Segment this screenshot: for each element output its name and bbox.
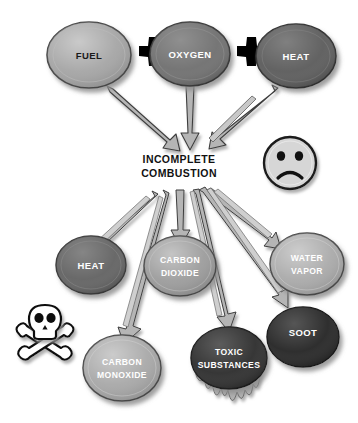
product-carbon-monoxide-label-line2: MONOXIDE <box>97 370 147 380</box>
skull-crossbones-icon <box>17 305 74 360</box>
product-soot-label: SOOT <box>289 327 318 338</box>
arrow-fuel-to-center <box>107 86 180 151</box>
reactant-fuel[interactable]: FUEL <box>47 22 131 88</box>
product-water-vapor[interactable]: WATER VAPOR <box>270 233 344 295</box>
product-water-vapor-label-line2: VAPOR <box>291 266 323 276</box>
diagram-canvas: FUEL OXYGEN HEAT INCOMPLETE COMBUSTION <box>0 0 358 423</box>
product-carbon-dioxide[interactable]: CARBON DIOXIDE <box>144 236 216 296</box>
product-carbon-monoxide[interactable]: CARBON MONOXIDE <box>83 335 161 401</box>
center-process-label: INCOMPLETE COMBUSTION <box>141 153 217 179</box>
reactant-fuel-label: FUEL <box>76 50 102 61</box>
product-toxic-substances-label-line1: TOXIC <box>215 347 243 357</box>
center-label-line1: INCOMPLETE <box>143 153 216 165</box>
reactant-oxygen-label: OXYGEN <box>168 49 211 60</box>
arrows-to-center <box>107 85 278 151</box>
product-carbon-dioxide-label-line2: DIOXIDE <box>161 268 199 278</box>
product-toxic-substances[interactable]: TOXIC SUBSTANCES <box>191 327 267 389</box>
product-water-vapor-label-line1: WATER <box>291 253 324 263</box>
product-carbon-dioxide-label-line1: CARBON <box>160 255 200 265</box>
product-toxic-substances-label-line2: SUBSTANCES <box>198 360 261 370</box>
product-carbon-monoxide-label-line1: CARBON <box>102 357 142 367</box>
product-soot[interactable]: SOOT <box>267 307 339 367</box>
arrow-heat-to-center <box>209 85 278 149</box>
sad-face-icon <box>264 137 316 189</box>
reactant-heat-label: HEAT <box>283 51 310 62</box>
product-heat-label: HEAT <box>78 260 105 271</box>
incomplete-combustion-diagram: FUEL OXYGEN HEAT INCOMPLETE COMBUSTION <box>0 0 358 423</box>
reactant-oxygen[interactable]: OXYGEN <box>150 22 230 86</box>
center-label-line2: COMBUSTION <box>141 167 217 179</box>
arrow-oxygen-to-center <box>181 86 199 150</box>
product-heat[interactable]: HEAT <box>56 236 126 294</box>
reactant-heat[interactable]: HEAT <box>256 24 336 88</box>
